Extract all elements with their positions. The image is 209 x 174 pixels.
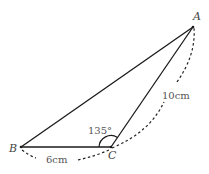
- vertex-label-b: B: [8, 142, 17, 155]
- vertex-a-dot: [192, 26, 195, 29]
- vertex-label-c: C: [108, 149, 117, 162]
- angle-label-c: 135°: [88, 125, 112, 136]
- side-ca: [111, 27, 193, 147]
- side-label-ca: 10cm: [162, 90, 190, 101]
- dashed-arc-ca-lower: [112, 102, 164, 148]
- vertex-b-dot: [20, 146, 23, 149]
- triangle-diagram: A B C 135° 6cm 10cm: [0, 0, 209, 174]
- vertex-c-dot: [110, 146, 113, 149]
- dashed-arc-bc: [22, 150, 36, 158]
- side-label-bc: 6cm: [46, 154, 68, 165]
- vertex-label-a: A: [192, 10, 201, 23]
- dashed-arc-bc-right: [78, 149, 111, 160]
